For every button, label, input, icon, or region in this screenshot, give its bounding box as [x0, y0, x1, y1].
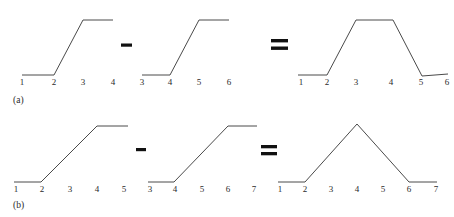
- operator-equals-a: [271, 39, 288, 50]
- tick-label-a3-3: 4: [389, 77, 394, 87]
- panel-a3: 1 2 3 4 5 6: [298, 20, 450, 87]
- minus-icon: [121, 44, 132, 47]
- tick-label-a2-2: 5: [197, 77, 202, 87]
- caption-b: (b): [13, 200, 24, 210]
- tick-label-b3-6: 7: [434, 184, 439, 194]
- tick-label-b3-3: 4: [355, 184, 360, 194]
- tick-label-a3-1: 2: [325, 77, 330, 87]
- tick-label-b3-1: 2: [303, 184, 308, 194]
- figure-container: 1 2 3 4 3 4 5 6: [0, 0, 454, 217]
- panel-b3: 1 2 3 4 5 6 7: [278, 124, 439, 194]
- tick-label-a1-2: 3: [81, 77, 86, 87]
- operator-minus-a: [121, 44, 132, 47]
- tick-label-a3-2: 3: [354, 77, 359, 87]
- tick-label-a3-5: 6: [445, 77, 450, 87]
- tick-label-a1-1: 2: [52, 77, 57, 87]
- curve-b2: [148, 126, 257, 182]
- tick-label-b3-0: 1: [278, 184, 283, 194]
- panel-a2: 3 4 5 6: [140, 20, 232, 87]
- tick-label-a3-0: 1: [299, 77, 304, 87]
- tick-label-a3-4: 5: [419, 77, 424, 87]
- curve-a2: [142, 20, 229, 75]
- row-a: 1 2 3 4 3 4 5 6: [20, 20, 450, 87]
- minus-icon: [136, 148, 146, 151]
- tick-label-b3-5: 6: [407, 184, 412, 194]
- tick-label-a2-0: 3: [140, 77, 145, 87]
- panel-b2: 3 4 5 6 7: [148, 126, 257, 194]
- tick-label-b2-4: 7: [252, 184, 257, 194]
- tick-label-b1-0: 1: [14, 184, 19, 194]
- curve-b1: [14, 126, 128, 182]
- tick-label-b1-3: 4: [95, 184, 100, 194]
- tick-label-b3-4: 5: [381, 184, 386, 194]
- equals-icon-bar-bottom: [271, 47, 288, 50]
- equals-icon-bar-top: [261, 145, 277, 148]
- tick-label-a1-3: 4: [111, 77, 116, 87]
- tick-label-b2-3: 6: [226, 184, 231, 194]
- curve-b3: [278, 124, 437, 182]
- tick-label-b2-0: 3: [148, 184, 153, 194]
- curve-a3: [298, 20, 448, 76]
- panel-a1: 1 2 3 4: [20, 20, 116, 87]
- operator-minus-b: [136, 148, 146, 151]
- tick-label-a1-0: 1: [20, 77, 25, 87]
- tick-label-b1-1: 2: [40, 184, 45, 194]
- operator-equals-b: [261, 145, 277, 155]
- tick-label-a2-3: 6: [227, 77, 232, 87]
- caption-a: (a): [13, 95, 24, 105]
- tick-label-b1-2: 3: [68, 184, 73, 194]
- waveform-figure: 1 2 3 4 3 4 5 6: [0, 0, 454, 217]
- tick-label-b2-2: 5: [200, 184, 205, 194]
- tick-label-b1-4: 5: [122, 184, 127, 194]
- tick-label-a2-1: 4: [168, 77, 173, 87]
- tick-label-b3-2: 3: [329, 184, 334, 194]
- equals-icon-bar-bottom: [261, 152, 277, 155]
- row-b: 1 2 3 4 5 3 4 5 6 7: [14, 124, 439, 194]
- curve-a1: [22, 20, 113, 75]
- panel-b1: 1 2 3 4 5: [14, 126, 128, 194]
- equals-icon-bar-top: [271, 39, 288, 42]
- tick-label-b2-1: 4: [173, 184, 178, 194]
